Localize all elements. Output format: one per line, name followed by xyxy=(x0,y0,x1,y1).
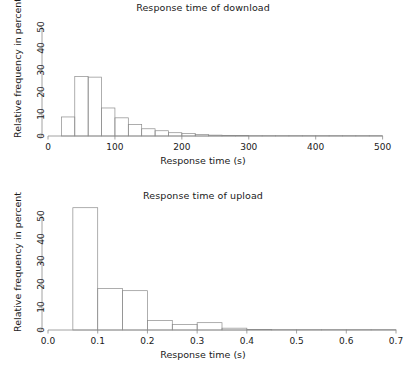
histogram-bar xyxy=(195,134,208,136)
x-tick-label: 200 xyxy=(173,142,190,152)
chart-download: Response time of download 01002003004005… xyxy=(0,0,406,188)
histogram-bars xyxy=(61,76,382,136)
x-tick-label: 0.5 xyxy=(289,336,303,346)
histogram-bar xyxy=(147,320,172,330)
y-tick-label: 50 xyxy=(36,210,46,221)
histogram-bar xyxy=(61,117,74,136)
x-axis-label: Response time (s) xyxy=(0,155,406,166)
x-tick-label: 300 xyxy=(240,142,257,152)
x-axis-label: Response time (s) xyxy=(0,349,406,360)
x-tick-label: 500 xyxy=(374,142,391,152)
y-tick-label: 50 xyxy=(36,21,46,32)
histogram-bar xyxy=(123,291,148,330)
histogram-bar xyxy=(128,125,141,136)
y-tick-label: 40 xyxy=(36,43,46,54)
y-tick-label: 40 xyxy=(36,233,46,244)
y-tick-label: 10 xyxy=(36,108,46,119)
x-tick-label: 0 xyxy=(45,142,51,152)
y-tick-label: 0 xyxy=(36,327,46,333)
x-tick-label: 0.0 xyxy=(41,336,55,346)
histogram-bars xyxy=(73,208,396,330)
y-axis-label: Relative frequency in percent xyxy=(12,192,23,332)
x-tick-label: 0.7 xyxy=(389,336,403,346)
x-tick-label: 0.6 xyxy=(339,336,353,346)
histogram-bar xyxy=(75,76,88,136)
histogram-bar xyxy=(88,77,101,136)
y-tick-label: 10 xyxy=(36,301,46,312)
y-axis-label: Relative frequency in percent xyxy=(12,0,23,138)
plot-area-upload xyxy=(0,188,406,376)
y-tick-label: 20 xyxy=(36,279,46,290)
x-tick-label: 400 xyxy=(307,142,324,152)
histogram-bar xyxy=(115,118,128,136)
histogram-bar xyxy=(197,323,222,330)
histogram-bar xyxy=(222,328,247,330)
x-tick-label: 0.2 xyxy=(140,336,154,346)
x-tick-label: 0.3 xyxy=(190,336,204,346)
histogram-bar xyxy=(98,288,123,330)
y-tick-label: 20 xyxy=(36,86,46,97)
y-tick-label: 0 xyxy=(36,133,46,139)
histogram-bar xyxy=(209,135,222,136)
chart-upload: Response time of upload 0.00.10.20.30.40… xyxy=(0,188,406,376)
y-tick-label: 30 xyxy=(36,256,46,267)
histogram-bar xyxy=(222,135,235,136)
histogram-bar xyxy=(168,133,181,136)
x-tick-label: 0.1 xyxy=(91,336,105,346)
histogram-bar xyxy=(142,129,155,136)
histogram-bar xyxy=(73,208,98,330)
y-tick-label: 30 xyxy=(36,65,46,76)
axes xyxy=(39,216,397,334)
histogram-bar xyxy=(247,329,272,330)
histogram-bar xyxy=(155,131,168,136)
histogram-bar xyxy=(102,108,115,136)
x-tick-label: 0.4 xyxy=(240,336,254,346)
histogram-bar xyxy=(172,325,197,330)
axes xyxy=(39,27,383,140)
x-tick-label: 100 xyxy=(106,142,123,152)
